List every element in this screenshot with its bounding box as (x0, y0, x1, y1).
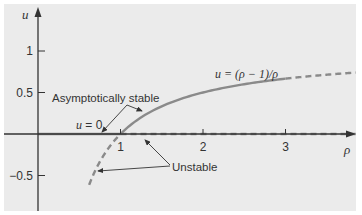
unstable-label: Unstable (172, 161, 217, 173)
y-tick-label-1: 0.5 (16, 86, 33, 100)
asymptotically-stable-label: Asymptotically stable (52, 92, 159, 104)
plot-svg: 12310.5−0.5 u ρ u = 0 u = (ρ − 1)/ρ Asym… (0, 0, 362, 215)
plot-background (4, 4, 356, 211)
u-zero-label-rest: = 0 (85, 118, 102, 132)
bifurcation-diagram: 12310.5−0.5 u ρ u = 0 u = (ρ − 1)/ρ Asym… (0, 0, 362, 215)
u-zero-label-var: u (76, 118, 82, 132)
y-tick-label-2: −0.5 (9, 169, 33, 183)
x-tick-label-2: 3 (282, 140, 289, 154)
u-zero-label: u = 0 (76, 118, 103, 132)
curve-equation-label: u = (ρ − 1)/ρ (215, 67, 278, 81)
y-axis-label: u (22, 7, 29, 22)
x-tick-label-0: 1 (117, 140, 124, 154)
x-tick-label-1: 2 (200, 140, 207, 154)
x-axis-label: ρ (343, 142, 350, 157)
y-tick-label-0: 1 (26, 44, 33, 58)
